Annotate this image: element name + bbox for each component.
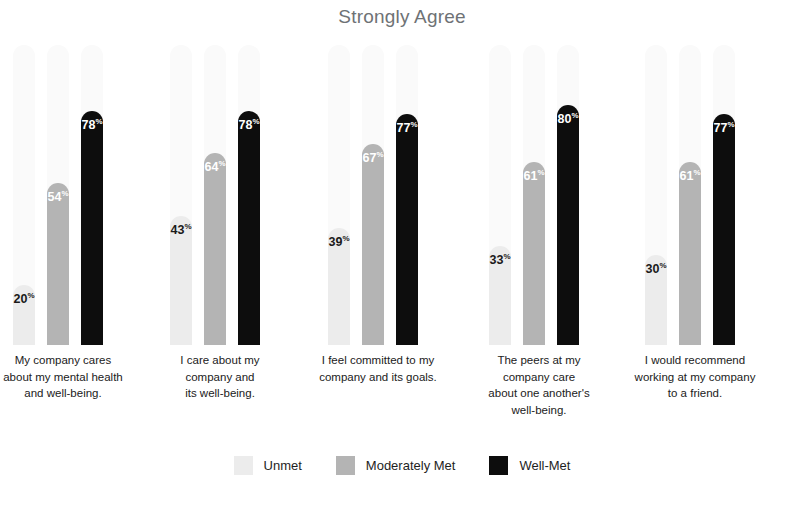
category-label-line: company and <box>154 369 286 386</box>
bar-value-label: 67% <box>362 151 384 165</box>
bar[interactable]: 77% <box>713 114 735 345</box>
chart-title: Strongly Agree <box>0 6 804 28</box>
bar-slot: 61% <box>523 45 545 345</box>
chart-root: Strongly Agree 20%54%78%43%64%78%39%67%7… <box>0 0 804 521</box>
legend-swatch-icon <box>336 456 355 475</box>
category-label: My company caresabout my mental healthan… <box>0 352 129 402</box>
category-label: The peers at mycompany careabout one ano… <box>473 352 605 418</box>
bar-value-label: 20% <box>13 292 35 306</box>
bar[interactable]: 61% <box>679 162 701 345</box>
bar-value-label: 64% <box>204 160 226 174</box>
bar-value-label: 30% <box>645 262 667 276</box>
bar-group: 30%61%77% <box>645 45 745 345</box>
bar-slot: 77% <box>396 45 418 345</box>
bar-slot: 67% <box>362 45 384 345</box>
category-label-line: The peers at my <box>473 352 605 369</box>
bar[interactable]: 30% <box>645 255 667 345</box>
bar-slot: 80% <box>557 45 579 345</box>
legend-label: Well-Met <box>519 458 570 473</box>
bar-slot: 39% <box>328 45 350 345</box>
bar[interactable]: 64% <box>204 153 226 345</box>
bar[interactable]: 39% <box>328 228 350 345</box>
bar-value-label: 43% <box>170 223 192 237</box>
category-label-line: My company cares <box>0 352 129 369</box>
category-label-line: working at my company <box>629 369 761 386</box>
category-label-line: company and its goals. <box>312 369 444 386</box>
bar[interactable]: 43% <box>170 216 192 345</box>
bar-slot: 64% <box>204 45 226 345</box>
bar-slot: 30% <box>645 45 667 345</box>
bar[interactable]: 77% <box>396 114 418 345</box>
category-label: I care about mycompany andits well-being… <box>154 352 286 402</box>
bar[interactable]: 80% <box>557 105 579 345</box>
bar-slot: 78% <box>81 45 103 345</box>
bar-value-label: 61% <box>523 169 545 183</box>
bar-value-label: 80% <box>557 112 579 126</box>
bar-value-label: 77% <box>713 121 735 135</box>
bar[interactable]: 20% <box>13 285 35 345</box>
bar[interactable]: 54% <box>47 183 69 345</box>
category-label-line: and well-being. <box>0 385 129 402</box>
category-label-line: about one another's <box>473 385 605 402</box>
bar-group: 20%54%78% <box>13 45 113 345</box>
legend-item[interactable]: Moderately Met <box>336 456 456 475</box>
bar-value-label: 54% <box>47 190 69 204</box>
bar-value-label: 39% <box>328 235 350 249</box>
bar[interactable]: 33% <box>489 246 511 345</box>
chart-legend: UnmetModerately MetWell-Met <box>0 456 804 475</box>
bar[interactable]: 61% <box>523 162 545 345</box>
bar[interactable]: 78% <box>238 111 260 345</box>
legend-label: Unmet <box>264 458 302 473</box>
bar-value-label: 33% <box>489 253 511 267</box>
bar-value-label: 78% <box>238 118 260 132</box>
plot-area: 20%54%78%43%64%78%39%67%77%33%61%80%30%6… <box>0 45 804 345</box>
category-label-line: to a friend. <box>629 385 761 402</box>
bar-group: 33%61%80% <box>489 45 589 345</box>
bar-group: 39%67%77% <box>328 45 428 345</box>
bar-slot: 54% <box>47 45 69 345</box>
legend-item[interactable]: Well-Met <box>489 456 570 475</box>
legend-label: Moderately Met <box>366 458 456 473</box>
bar-group: 43%64%78% <box>170 45 270 345</box>
category-label-line: well-being. <box>473 402 605 419</box>
bar-value-label: 77% <box>396 121 418 135</box>
category-label-line: about my mental health <box>0 369 129 386</box>
category-label-line: I would recommend <box>629 352 761 369</box>
category-label: I feel committed to mycompany and its go… <box>312 352 444 385</box>
bar-value-label: 78% <box>81 118 103 132</box>
bar-slot: 61% <box>679 45 701 345</box>
category-label: I would recommendworking at my companyto… <box>629 352 761 402</box>
bar[interactable]: 67% <box>362 144 384 345</box>
legend-swatch-icon <box>489 456 508 475</box>
bar-slot: 77% <box>713 45 735 345</box>
bar-slot: 33% <box>489 45 511 345</box>
category-label-line: I care about my <box>154 352 286 369</box>
category-label-line: its well-being. <box>154 385 286 402</box>
bar[interactable]: 78% <box>81 111 103 345</box>
legend-swatch-icon <box>234 456 253 475</box>
bar-value-label: 61% <box>679 169 701 183</box>
category-label-line: company care <box>473 369 605 386</box>
bar-slot: 43% <box>170 45 192 345</box>
legend-item[interactable]: Unmet <box>234 456 302 475</box>
bar-slot: 20% <box>13 45 35 345</box>
category-label-line: I feel committed to my <box>312 352 444 369</box>
bar-slot: 78% <box>238 45 260 345</box>
